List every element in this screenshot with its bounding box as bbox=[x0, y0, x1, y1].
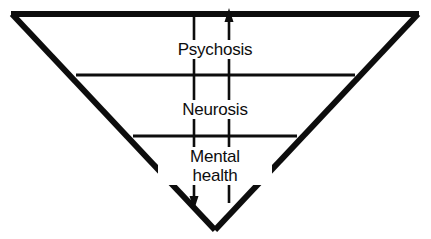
diagram-canvas bbox=[0, 0, 431, 239]
band-label-psychosis: Psychosis bbox=[146, 40, 284, 59]
band-label-mental-health: Mental health bbox=[158, 147, 272, 185]
inverted-triangle-diagram: Psychosis Neurosis Mental health bbox=[0, 0, 431, 239]
band-label-neurosis: Neurosis bbox=[150, 100, 280, 119]
